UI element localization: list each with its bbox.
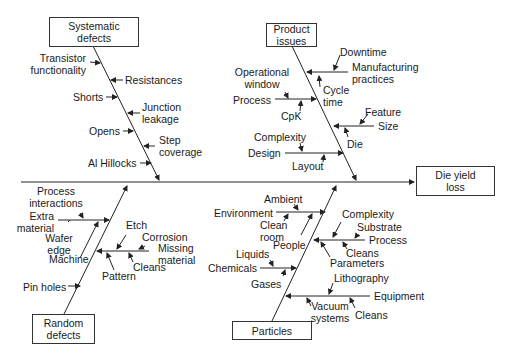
category-label: defects bbox=[44, 329, 84, 341]
cause-feature: Feature bbox=[365, 106, 401, 118]
category-box-product-issues: Product issues bbox=[266, 23, 317, 47]
effect-label-line2: loss bbox=[435, 181, 475, 193]
cause-environment: Environment bbox=[214, 207, 273, 219]
cause-liquids: Liquids bbox=[236, 248, 269, 260]
category-label: Product bbox=[273, 23, 309, 35]
cause-cleans: Cleans bbox=[133, 261, 166, 273]
effect-box: Die yield loss bbox=[416, 166, 495, 196]
effect-label-line1: Die yield bbox=[435, 169, 475, 181]
cause-al-hillocks: Al Hillocks bbox=[88, 157, 136, 169]
cause-substrate: Substrate bbox=[357, 221, 402, 233]
cause-downtime: Downtime bbox=[340, 46, 387, 58]
cause-shorts: Shorts bbox=[73, 91, 103, 103]
cause-people: People bbox=[273, 239, 306, 251]
category-label: defects bbox=[68, 32, 119, 44]
cause-manufacturing-practices: Manufacturingpractices bbox=[352, 61, 419, 85]
cause-complexity-particles: Complexity bbox=[342, 208, 394, 220]
cause-junction-leakage: Junctionleakage bbox=[142, 101, 181, 125]
cause-operational-window: Operationalwindow bbox=[232, 66, 292, 90]
cause-design: Design bbox=[248, 147, 281, 159]
cause-die: Die bbox=[347, 138, 363, 150]
category-label: Systematic bbox=[68, 20, 119, 32]
cause-cpk: CpK bbox=[281, 110, 301, 122]
cause-opens: Opens bbox=[89, 125, 120, 137]
cause-extra-material: Extramaterial bbox=[14, 210, 54, 234]
cause-etch: Etch bbox=[126, 219, 147, 231]
cause-cycle-time: Cycletime bbox=[323, 84, 349, 108]
cause-pin-holes: Pin holes bbox=[23, 281, 66, 293]
cause-ambient: Ambient bbox=[264, 193, 303, 205]
cause-gases: Gases bbox=[251, 278, 281, 290]
cause-cleans-equipment: Cleans bbox=[355, 309, 388, 321]
cause-size: Size bbox=[378, 120, 398, 132]
cause-parameters: Parameters bbox=[330, 257, 384, 269]
category-label: Particles bbox=[252, 325, 292, 337]
cause-process-particles: Process bbox=[369, 234, 407, 246]
cause-layout: Layout bbox=[292, 160, 324, 172]
category-label: Random bbox=[44, 317, 84, 329]
cause-chemicals: Chemicals bbox=[208, 262, 257, 274]
cause-resistances: Resistances bbox=[125, 74, 182, 86]
cause-complexity: Complexity bbox=[254, 131, 306, 143]
cause-machine: Machine bbox=[49, 253, 89, 265]
cause-equipment: Equipment bbox=[374, 290, 424, 302]
cause-process: Process bbox=[233, 94, 271, 106]
category-box-systematic-defects: Systematic defects bbox=[49, 17, 139, 47]
cause-process-interactions: Processinteractions bbox=[28, 185, 84, 209]
cause-step-coverage: Stepcoverage bbox=[159, 134, 202, 158]
cause-pattern: Pattern bbox=[102, 270, 136, 282]
cause-vacuum-systems: Vacuumsystems bbox=[310, 300, 350, 324]
cause-transistor-functionality: Transistorfunctionality bbox=[30, 52, 86, 76]
category-label: issues bbox=[273, 35, 309, 47]
category-box-particles: Particles bbox=[232, 321, 312, 340]
category-box-random-defects: Random defects bbox=[32, 314, 95, 344]
cause-lithography: Lithography bbox=[334, 272, 389, 284]
